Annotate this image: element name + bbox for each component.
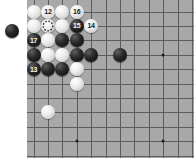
stone-black[interactable] [55,33,69,47]
stone-black-move-17[interactable]: 17 [27,33,41,47]
move-number-label: 15 [73,22,80,29]
offboard-stone-black[interactable] [5,24,19,38]
grid-line-horizontal [27,84,194,85]
star-point [75,140,78,143]
stone-white[interactable] [55,5,69,19]
stone-black[interactable] [41,62,55,76]
move-number-label: 12 [44,8,51,15]
grid-line-vertical [163,0,164,158]
stone-white[interactable] [55,48,69,62]
stone-white[interactable] [27,5,41,19]
stone-black[interactable] [27,48,41,62]
stone-black[interactable] [113,48,127,62]
grid-line-vertical [192,0,193,158]
stone-black[interactable] [55,62,69,76]
stone-white[interactable] [70,77,84,91]
stone-white-move-12[interactable]: 12 [41,5,55,19]
stone-white[interactable] [41,105,55,119]
move-number-label: 13 [30,66,37,73]
grid-line-horizontal [27,141,194,142]
stone-white[interactable] [27,19,41,33]
grid-line-vertical [178,0,179,158]
grid-line-horizontal [27,127,194,128]
star-point [162,140,165,143]
move-number-label: 14 [88,22,95,29]
dashed-circle-marker-icon [41,19,55,33]
grid-line-vertical [106,0,107,158]
go-diagram: 121615141713 [0,0,194,165]
stone-black[interactable] [70,48,84,62]
star-point [162,53,165,56]
stone-black[interactable] [70,33,84,47]
stone-black-move-13[interactable]: 13 [27,62,41,76]
stone-white-move-16[interactable]: 16 [70,5,84,19]
stone-white[interactable] [55,19,69,33]
stone-white[interactable] [70,62,84,76]
grid-line-vertical [134,0,135,158]
stone-white-move-14[interactable]: 14 [84,19,98,33]
grid-line-horizontal [27,156,194,157]
stone-black-move-15[interactable]: 15 [70,19,84,33]
move-number-label: 16 [73,8,80,15]
go-board[interactable]: 121615141713 [27,0,194,158]
stone-white[interactable] [41,48,55,62]
grid-line-horizontal [27,98,194,99]
grid-line-vertical [149,0,150,158]
stone-black[interactable] [84,48,98,62]
grid-line-vertical [120,0,121,158]
move-number-label: 17 [30,37,37,44]
stone-white[interactable] [41,33,55,47]
